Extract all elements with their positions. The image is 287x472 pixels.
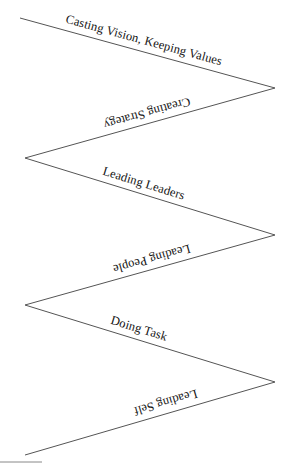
diagram-canvas: Casting Vision, Keeping Values Creating … xyxy=(0,0,287,472)
zigzag-polyline xyxy=(20,18,275,455)
